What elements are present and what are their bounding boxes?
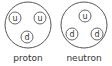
quark-label: u	[37, 14, 42, 23]
quark-label: u	[82, 12, 87, 21]
neutron: u d d neutron	[61, 2, 107, 63]
quark-label: d	[69, 30, 74, 39]
diagram-canvas: u u d proton u d d neutron	[0, 0, 112, 66]
proton: u u d proton	[5, 2, 51, 63]
quark-label: d	[94, 30, 99, 39]
neutron-label: neutron	[66, 53, 101, 63]
proton-label: proton	[13, 53, 42, 63]
quark-label: u	[12, 14, 17, 23]
neutron-circle	[61, 2, 107, 48]
quark-label: d	[24, 33, 29, 42]
